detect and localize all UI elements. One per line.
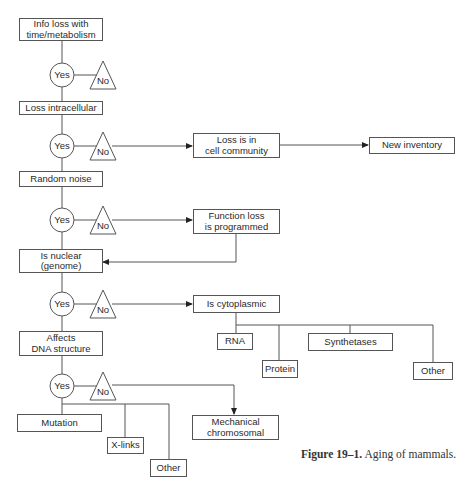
box-x-links: X-links [107, 437, 144, 454]
no-label-4: No [93, 304, 113, 315]
figure-label: Figure 19–1. [301, 448, 362, 460]
yes-label-4: Yes [50, 298, 74, 309]
box-is-nuclear: Is nuclear (genome) [19, 249, 103, 273]
box-loss-intracellular: Loss intracellular [19, 101, 103, 115]
yes-label-2: Yes [50, 140, 74, 151]
box-protein: Protein [262, 360, 298, 378]
box-affects-dna: Affects DNA structure [19, 331, 103, 356]
box-rna: RNA [217, 333, 253, 350]
no-label-3: No [93, 220, 113, 231]
yes-label-5: Yes [50, 380, 74, 391]
box-info-loss: Info loss with time/metabolism [19, 18, 103, 41]
yes-label-3: Yes [50, 214, 74, 225]
box-random-noise: Random noise [19, 171, 103, 187]
no-label-5: No [93, 386, 113, 397]
box-new-inventory: New inventory [369, 137, 455, 154]
box-function-loss: Function loss is programmed [193, 209, 280, 234]
flowchart-canvas: Yes Yes Yes Yes Yes No No No No No Info … [0, 0, 474, 493]
box-is-cytoplasmic: Is cytoplasmic [193, 295, 280, 313]
no-label-1: No [93, 75, 113, 86]
box-mutation: Mutation [17, 414, 102, 432]
figure-caption-text: Aging of mammals. [364, 448, 456, 460]
yes-label-1: Yes [50, 69, 74, 80]
box-dna-other: Other [150, 459, 187, 477]
box-synthetases: Synthetases [308, 333, 393, 351]
no-label-2: No [93, 146, 113, 157]
box-cyto-other: Other [413, 362, 453, 380]
figure-caption: Figure 19–1. Aging of mammals. [301, 448, 456, 460]
box-mechanical-chromosomal: Mechanical chromosomal [192, 415, 279, 440]
box-cell-community: Loss is in cell community [193, 133, 280, 158]
